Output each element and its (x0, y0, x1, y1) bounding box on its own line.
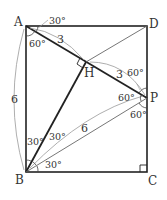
label-point-a: A (13, 15, 23, 29)
label-point-h: H (84, 66, 94, 80)
label-angle-b-bottom: 30° (45, 159, 62, 170)
segment-hd (86, 26, 147, 62)
angle-arc-p-left (140, 95, 141, 101)
label-length-ah: 3 (57, 33, 64, 46)
angle-arc-b-bottom (37, 166, 38, 172)
label-angle-p-top: 60° (127, 67, 144, 78)
label-point-c: C (148, 174, 157, 188)
label-angle-a-inner: 60° (29, 38, 46, 49)
right-angle-mark-c (140, 165, 147, 172)
geometry-diagram: A D B C H P 6 3 3 6 30° 60° 60° 60° 60° … (0, 0, 167, 200)
label-point-b: B (15, 173, 24, 187)
label-point-d: D (149, 17, 159, 31)
leader-a-30 (37, 20, 48, 29)
label-length-bp: 6 (81, 122, 88, 135)
label-angle-a-top: 30° (49, 15, 66, 26)
label-angle-b-mid: 30° (49, 131, 66, 142)
angle-arc-a-60 (26, 31, 35, 36)
segment-bh (26, 62, 86, 172)
label-point-p: P (150, 91, 158, 105)
label-angle-b-left: 30° (27, 136, 44, 147)
label-angle-p-left: 60° (118, 92, 135, 103)
angle-arc-p-bottom (139, 103, 147, 108)
label-angle-p-bottom: 60° (130, 109, 147, 120)
label-length-hp: 3 (116, 68, 123, 81)
label-length-ab: 6 (11, 93, 18, 106)
